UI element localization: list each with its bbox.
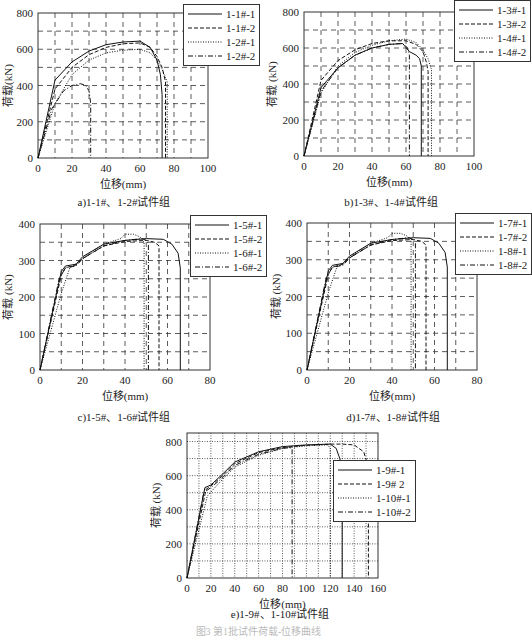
y-tick-label: 600 (283, 42, 300, 54)
chart-panel-c: 0204060800100200300400位移(mm)荷载 (kN) 1-5#… (0, 210, 260, 425)
chart-d-legend: 1-7#-11-7#-21-8#-11-8#-2 (455, 213, 532, 275)
legend-item: 1-1#-1 (188, 7, 255, 21)
x-tick-label: 40 (229, 582, 241, 594)
legend-line-icon (188, 39, 222, 45)
series-line (304, 44, 409, 157)
chart-panel-d: 0204060800100200300400位移(mm)荷载 (kN) 1-7#… (258, 210, 517, 425)
legend-label: 1-2#-1 (226, 35, 255, 49)
y-tick-label: 600 (166, 470, 183, 482)
x-tick-label: 60 (253, 582, 265, 594)
y-tick-label: 400 (166, 504, 183, 516)
legend-line-icon (460, 234, 494, 240)
series-line (187, 448, 292, 579)
legend-label: 1-7#-1 (498, 216, 527, 230)
x-tick-label: 60 (401, 160, 413, 172)
legend-item: 1-8#-1 (460, 244, 527, 258)
x-tick-label: 0 (304, 374, 310, 386)
y-tick-label: 0 (28, 152, 34, 164)
legend-item: 1-1#-2 (188, 21, 255, 35)
x-tick-label: 100 (298, 582, 315, 594)
series-line (307, 238, 415, 370)
x-tick-label: 20 (67, 162, 79, 174)
y-axis-label: 荷载 (kN) (2, 274, 15, 320)
x-tick-label: 20 (77, 374, 89, 386)
x-tick-label: 40 (387, 374, 399, 386)
x-tick-label: 80 (435, 160, 447, 172)
y-tick-label: 400 (19, 218, 36, 230)
y-tick-label: 0 (177, 572, 183, 584)
x-tick-label: 120 (322, 582, 339, 594)
chart-b-legend: 1-3#-11-3#-21-4#-11-4#-2 (454, 0, 531, 62)
legend-line-icon (459, 21, 493, 27)
legend-line-icon (459, 49, 493, 55)
legend-item: 1-5#-1 (195, 218, 262, 232)
x-tick-label: 0 (35, 162, 41, 174)
y-tick-label: 300 (19, 255, 36, 267)
legend-label: 1-4#-1 (497, 31, 526, 45)
chart-e-caption: e)1-9#、1-10#试件组 (231, 605, 329, 621)
legend-line-icon (195, 250, 229, 256)
legend-line-icon (460, 262, 494, 268)
legend-label: 1-2#-2 (226, 49, 255, 63)
y-tick-label: 0 (294, 150, 300, 162)
legend-label: 1-1#-2 (226, 21, 255, 35)
legend-line-icon (459, 35, 493, 41)
x-tick-label: 160 (370, 582, 387, 594)
y-axis-label: 荷载 (kN) (150, 482, 163, 528)
y-tick-label: 400 (286, 217, 303, 229)
chart-b-caption: b)1-3#、1-4#试件组 (344, 193, 438, 209)
legend-item: 1-2#-1 (188, 35, 255, 49)
legend-label: 1-9# 2 (376, 477, 404, 491)
x-tick-label: 80 (472, 374, 484, 386)
figure-caption: 图3 第1批试件荷载-位移曲线 (196, 623, 322, 638)
legend-label: 1-4#-2 (497, 45, 526, 59)
chart-panel-b: 0204060801000200400600800位移(mm)荷载 (kN) 1… (258, 0, 517, 210)
x-axis-label: 位移(mm) (102, 389, 149, 403)
legend-item: 1-10#-1 (338, 491, 411, 505)
series-line (38, 41, 162, 158)
y-tick-label: 300 (286, 254, 303, 266)
y-tick-label: 800 (166, 436, 183, 448)
x-tick-label: 60 (135, 162, 147, 174)
legend-line-icon (188, 53, 222, 59)
x-tick-label: 60 (162, 374, 174, 386)
x-tick-label: 80 (169, 162, 181, 174)
y-tick-label: 100 (19, 328, 36, 340)
legend-item: 1-2#-2 (188, 49, 255, 63)
y-tick-label: 400 (283, 78, 300, 90)
chart-d-caption: d)1-7#、1-8#试件组 (346, 408, 440, 424)
x-tick-label: 60 (429, 374, 441, 386)
x-tick-label: 0 (184, 582, 190, 594)
y-tick-label: 200 (286, 291, 303, 303)
series-line (304, 39, 432, 156)
legend-line-icon (338, 467, 372, 473)
legend-line-icon (338, 495, 372, 501)
chart-c-legend: 1-5#-11-5#-21-6#-11-6#-2 (190, 215, 267, 277)
y-tick-label: 600 (17, 43, 34, 55)
legend-item: 1-3#-1 (459, 3, 526, 17)
chart-panel-e: 0204060801001201401600200400600800位移(mm)… (130, 425, 390, 625)
y-tick-label: 200 (166, 538, 183, 550)
y-axis-label: 荷载(kN) (2, 64, 15, 107)
x-tick-label: 140 (346, 582, 363, 594)
legend-line-icon (188, 25, 222, 31)
legend-line-icon (195, 264, 229, 270)
series-line (40, 240, 159, 370)
legend-label: 1-3#-2 (497, 17, 526, 31)
legend-label: 1-9#-1 (376, 463, 405, 477)
legend-item: 1-7#-2 (460, 230, 527, 244)
chart-c-caption: c)1-5#、1-6#试件组 (78, 408, 171, 424)
legend-item: 1-3#-2 (459, 17, 526, 31)
legend-line-icon (338, 509, 372, 515)
legend-label: 1-8#-2 (498, 258, 527, 272)
y-tick-label: 100 (286, 327, 303, 339)
legend-label: 1-1#-1 (226, 7, 255, 21)
legend-item: 1-6#-2 (195, 260, 262, 274)
x-tick-label: 80 (277, 582, 289, 594)
legend-line-icon (460, 220, 494, 226)
x-axis-label: 位移(mm) (369, 389, 416, 403)
legend-line-icon (195, 236, 229, 242)
x-tick-label: 40 (120, 374, 132, 386)
y-tick-label: 200 (283, 114, 300, 126)
legend-item: 1-9#-1 (338, 463, 411, 477)
